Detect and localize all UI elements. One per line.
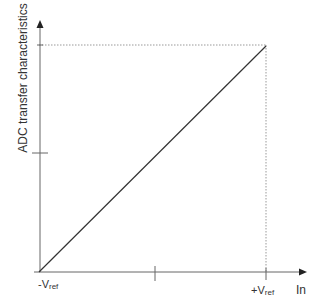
y-axis-label: ADC transfer characteristics [16,3,30,152]
x-tick-label-pos-vref: +Vref [251,284,275,297]
x-axis-arrow-icon [299,269,307,276]
y-axis-arrow-icon [37,20,44,28]
adc-transfer-diagram: ADC transfer characteristics -Vref +Vref… [0,0,324,303]
transfer-line [39,46,266,272]
x-axis-label: In [296,283,306,297]
x-tick-label-neg-vref: -Vref [38,278,59,291]
